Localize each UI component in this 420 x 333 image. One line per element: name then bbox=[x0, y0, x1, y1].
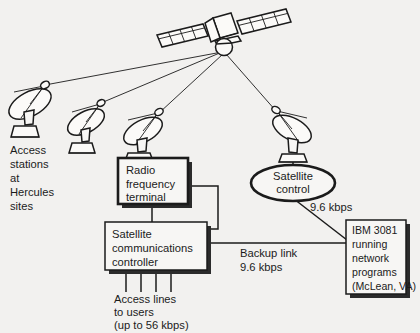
ibm-host-label-line-2: running bbox=[352, 238, 387, 250]
access-lines-line-1: Access lines bbox=[114, 293, 177, 305]
earth-station-dish-2 bbox=[63, 98, 108, 153]
earth-station-dish-4 bbox=[268, 105, 315, 162]
access-lines-caption: Access lines to users (up to 56 kbps) bbox=[114, 293, 189, 331]
access-stations-line-4: Hercules bbox=[10, 186, 55, 198]
satellite-control-label-line-2: control bbox=[276, 183, 310, 195]
satellite bbox=[157, 9, 291, 56]
access-stations-line-3: at bbox=[10, 172, 20, 184]
beam-to-station-2 bbox=[101, 52, 222, 103]
radio-frequency-terminal-label-line-1: Radio bbox=[126, 164, 155, 176]
beam-to-station-3 bbox=[159, 54, 223, 113]
backup-link-line-2: 9.6 kbps bbox=[240, 261, 283, 273]
beam-to-station-4 bbox=[226, 54, 276, 111]
ibm-host-label-line-4: programs bbox=[352, 266, 397, 278]
satellite-communications-controller-label-line-3: controller bbox=[112, 256, 158, 268]
backup-link-line-1: Backup link bbox=[240, 247, 298, 259]
ibm-host-label-line-1: IBM 3081 bbox=[352, 224, 397, 236]
access-stations-line-2: stations bbox=[10, 158, 49, 170]
satellite-dish bbox=[216, 39, 233, 56]
access-stations-line-5: sites bbox=[10, 200, 33, 212]
earth-station-dish-3 bbox=[119, 107, 166, 161]
access-lines-line-2: to users bbox=[114, 306, 154, 318]
control-link-rate-label: 9.6 kbps bbox=[310, 201, 353, 213]
ibm-host-label-line-5: (McLean, VA) bbox=[352, 280, 416, 292]
radio-frequency-terminal-label-line-2: frequency bbox=[126, 178, 176, 190]
access-stations-caption: Access stations at Hercules sites bbox=[10, 144, 55, 212]
satellite-communications-controller-label-line-1: Satellite bbox=[112, 228, 152, 240]
access-lines-line-3: (up to 56 kbps) bbox=[114, 319, 189, 331]
satellite-control-label-line-1: Satellite bbox=[273, 170, 313, 182]
satellite-communications-controller-box: Satellite communications controller bbox=[105, 222, 211, 274]
satellite-network-diagram: Radio frequency terminal Satellite commu… bbox=[0, 0, 420, 333]
diagram-canvas: Radio frequency terminal Satellite commu… bbox=[0, 0, 420, 333]
ibm-host-label-line-3: network bbox=[352, 252, 390, 264]
radio-frequency-terminal-label-line-3: terminal bbox=[126, 191, 166, 203]
satellite-solar-panel-right bbox=[237, 9, 291, 34]
access-stations-line-1: Access bbox=[10, 144, 46, 156]
satellite-solar-panel-left bbox=[157, 24, 208, 47]
beam-to-station-1 bbox=[45, 52, 222, 85]
ibm-host-box: IBM 3081 running network programs (McLea… bbox=[346, 220, 416, 298]
backup-link-caption: Backup link 9.6 kbps bbox=[240, 247, 298, 273]
radio-frequency-terminal-box: Radio frequency terminal bbox=[118, 158, 192, 208]
satellite-communications-controller-label-line-2: communications bbox=[112, 242, 193, 254]
earth-station-dish-1 bbox=[4, 80, 56, 137]
satellite-control-node: Satellite control bbox=[251, 165, 335, 201]
satellite-beam-lines bbox=[45, 52, 276, 113]
